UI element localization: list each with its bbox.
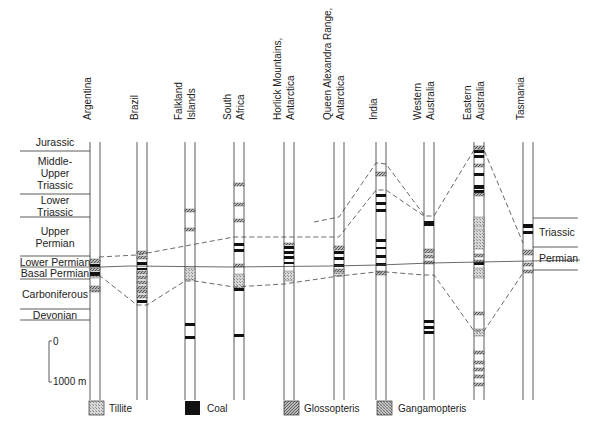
column-name: Antarctica <box>285 75 296 120</box>
column-name: Western <box>412 83 423 120</box>
column-argentina <box>90 142 100 400</box>
column-name: Islands <box>186 88 197 120</box>
scale-top-label: 0 <box>53 336 59 347</box>
column-india <box>376 142 386 400</box>
glossopteris-swatch-icon <box>284 401 299 415</box>
column-horlick-mountains-antarctica <box>284 142 294 400</box>
period-label: Upper <box>41 225 70 237</box>
column-name: Australia <box>425 81 436 120</box>
column-name: Horlick Mountains, <box>272 38 283 120</box>
column-name: Queen Alexandra Range, <box>322 8 333 120</box>
column-name: Falkland <box>173 82 184 120</box>
column-south-africa <box>234 142 244 400</box>
lower-permian-boundary-line <box>20 260 580 267</box>
column-western-australia <box>424 142 434 400</box>
gangamopteris-swatch-icon <box>377 401 392 415</box>
legend-tillite-label: Tillite <box>109 403 132 414</box>
legend-glossopteris-label: Glossopteris <box>304 403 360 414</box>
basal-correlation-dashed <box>99 272 523 331</box>
gondwana-stratigraphic-correlation-diagram: JurassicMiddle-UpperTriassicLowerTriassi… <box>0 0 594 430</box>
period-label: Jurassic <box>36 136 75 148</box>
column-name: Brazil <box>129 95 140 120</box>
column-eastern-australia <box>474 142 484 400</box>
column-falkland-islands <box>185 142 195 400</box>
column-name: Africa <box>235 94 246 120</box>
tasmania-triassic-label: Triassic <box>539 226 575 238</box>
column-name: Eastern <box>462 86 473 120</box>
stratigraphic-columns <box>90 142 533 400</box>
legend: Tillite Coal Glossopteris Gangamopteris <box>89 401 466 415</box>
period-label: Lower <box>41 194 70 206</box>
period-label: Middle- <box>38 155 73 167</box>
period-label: Triassic <box>37 179 73 191</box>
period-label: Permian <box>35 237 74 249</box>
legend-gangamopteris-label: Gangamopteris <box>398 403 466 414</box>
period-labels: JurassicMiddle-UpperTriassicLowerTriassi… <box>20 136 91 321</box>
upper-correlation-dashed <box>99 150 523 257</box>
correlation-lines <box>20 150 580 331</box>
column-name: Antarctica <box>335 75 346 120</box>
column-name: Tasmania <box>515 77 526 120</box>
tasmania-permian-label: Permian <box>539 252 578 264</box>
lower-triassic-dashed <box>314 163 424 222</box>
legend-coal-label: Coal <box>207 403 228 414</box>
column-name: Argentina <box>82 77 93 120</box>
column-names: ArgentinaBrazilFalklandIslandsSouthAfric… <box>82 8 526 120</box>
scale-bar: 0 1000 m <box>49 336 86 387</box>
column-name: South <box>222 94 233 120</box>
column-tasmania <box>523 142 533 400</box>
column-queen-alexandra-range-antarctica <box>334 142 344 400</box>
period-label: Triassic <box>37 206 73 218</box>
period-label: Basal Permian <box>21 267 89 279</box>
scale-bottom-label: 1000 m <box>53 376 86 387</box>
coal-swatch-icon <box>185 401 200 415</box>
column-name: India <box>368 98 379 120</box>
period-label: Lower Permian <box>20 256 91 268</box>
period-label: Upper <box>41 167 70 179</box>
column-name: Australia <box>475 81 486 120</box>
period-label: Carboniferous <box>22 288 88 300</box>
period-label: Devonian <box>33 309 78 321</box>
tillite-swatch-icon <box>89 401 104 415</box>
column-brazil <box>137 142 147 400</box>
